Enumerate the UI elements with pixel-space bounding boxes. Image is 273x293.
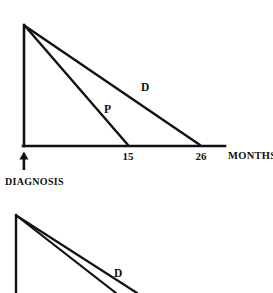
- x-axis-title-months: MONTHS: [228, 150, 273, 161]
- x-tick-label-26: 26: [196, 150, 208, 162]
- series-label-d-bottom: D: [114, 267, 122, 279]
- series-label-d: D: [141, 81, 149, 93]
- series-label-p: P: [104, 103, 111, 115]
- series-line-d-bottom: [17, 216, 137, 293]
- chart-top: D P 15 26 MONTHS DIAGNOSIS: [5, 25, 273, 187]
- figure-root: D P 15 26 MONTHS DIAGNOSIS D: [0, 0, 273, 293]
- chart-bottom-cropped: D: [16, 215, 137, 293]
- diagnosis-arrow-icon: [19, 152, 28, 171]
- survival-curves-figure: D P 15 26 MONTHS DIAGNOSIS D: [0, 0, 273, 293]
- x-tick-label-15: 15: [123, 150, 135, 162]
- series-line-p-bottom: [17, 216, 116, 293]
- diagnosis-annotation-label: DIAGNOSIS: [5, 176, 64, 187]
